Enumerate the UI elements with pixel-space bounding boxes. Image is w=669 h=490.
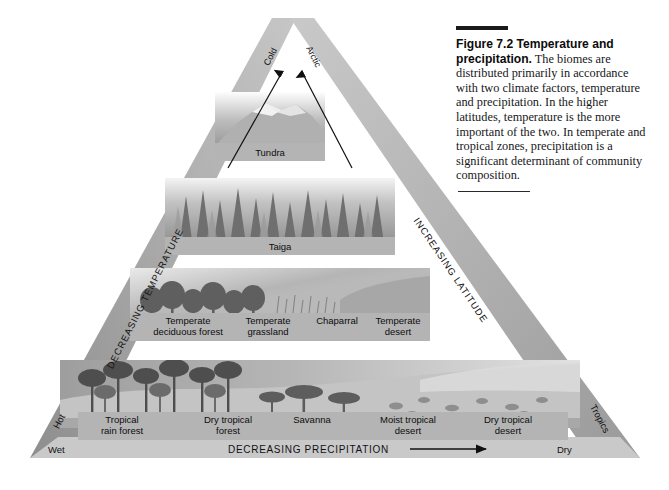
taiga-row: Taiga (165, 178, 395, 255)
biome-label-dry-tropical-forest-line2: forest (216, 425, 240, 436)
caption-body: The biomes are distributed primarily in … (456, 52, 646, 183)
biome-label-moist-tropical-desert-line2: desert (395, 425, 422, 436)
biome-label-temperate-desert-line2: desert (385, 326, 412, 337)
base-label-dry: Dry (557, 444, 572, 455)
base-axis-label: DECREASING PRECIPITATION (228, 444, 389, 455)
biome-label-temperate-grassland-line1: Temperate (246, 315, 291, 326)
biome-label-tropical-rain-forest-line2: rain forest (101, 425, 144, 436)
biome-label-taiga: Taiga (269, 241, 292, 252)
biome-label-temperate-desert-line1: Temperate (376, 315, 421, 326)
tropical-row: Tropical rain forest Dry tropical forest… (60, 359, 580, 440)
biome-label-temperate-deciduous-forest-line2: deciduous forest (153, 326, 223, 337)
caption-rule-top (456, 26, 508, 30)
figure-caption: Figure 7.2 Temperature and precipitation… (456, 26, 652, 192)
biome-label-savanna: Savanna (293, 414, 331, 425)
biome-label-chaparral: Chaparral (316, 315, 358, 326)
caption-text: Figure 7.2 Temperature and precipitation… (456, 37, 652, 183)
biome-label-temperate-deciduous-forest-line1: Temperate (166, 315, 211, 326)
biome-label-moist-tropical-desert-line1: Moist tropical (380, 414, 436, 425)
biome-label-tropical-rain-forest-line1: Tropical (105, 414, 138, 425)
biome-label-tundra: Tundra (255, 147, 285, 158)
base-label-wet: Wet (48, 444, 65, 455)
caption-rule-bottom (458, 191, 530, 192)
figure-7-2: Tundra (0, 0, 669, 490)
biome-label-dry-tropical-desert-line1: Dry tropical (484, 414, 532, 425)
tundra-row: Tundra (215, 92, 325, 161)
biome-label-temperate-grassland-line2: grassland (247, 326, 288, 337)
biome-label-dry-tropical-desert-line2: desert (495, 425, 522, 436)
temperate-row: Temperate deciduous forest Temperate gra… (130, 268, 430, 341)
biome-label-dry-tropical-forest-line1: Dry tropical (204, 414, 252, 425)
